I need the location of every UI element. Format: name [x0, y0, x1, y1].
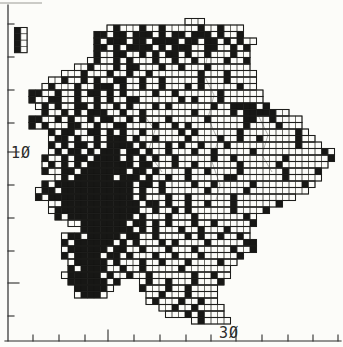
grid-cell [185, 129, 192, 136]
filled-record-cell [127, 64, 134, 71]
grid-cell [205, 285, 212, 292]
grid-cell [263, 188, 270, 195]
filled-record-cell [94, 97, 101, 104]
grid-cell [172, 227, 179, 234]
grid-cell [179, 103, 186, 110]
filled-record-cell [15, 40, 21, 46]
grid-cell [81, 233, 88, 240]
grid-cell [309, 168, 316, 175]
grid-cell [192, 285, 199, 292]
grid-cell [224, 97, 231, 104]
grid-cell [211, 279, 218, 286]
filled-record-cell [107, 142, 114, 149]
grid-cell [88, 77, 95, 84]
grid-cell [146, 51, 153, 58]
filled-record-cell [153, 207, 160, 214]
grid-cell [198, 110, 205, 117]
grid-cell [224, 214, 231, 221]
filled-record-cell [192, 246, 199, 253]
grid-cell [172, 220, 179, 227]
filled-record-cell [88, 129, 95, 136]
grid-cell [224, 45, 231, 52]
grid-cell [140, 233, 147, 240]
grid-cell [302, 129, 309, 136]
grid-cell [153, 259, 160, 266]
grid-cell [205, 194, 212, 201]
filled-record-cell [55, 181, 62, 188]
filled-record-cell [185, 207, 192, 214]
filled-record-cell [218, 97, 225, 104]
grid-cell [289, 162, 296, 169]
grid-cell [179, 162, 186, 169]
grid-cell [179, 149, 186, 156]
filled-record-cell [231, 207, 238, 214]
grid-cell [75, 220, 82, 227]
filled-record-cell [107, 240, 114, 247]
filled-record-cell [107, 149, 114, 156]
grid-cell [250, 194, 257, 201]
filled-record-cell [237, 103, 244, 110]
grid-cell [205, 207, 212, 214]
grid-cell [205, 123, 212, 130]
grid-cell [172, 259, 179, 266]
grid-cell [250, 162, 257, 169]
filled-record-cell [81, 279, 88, 286]
filled-record-cell [120, 207, 127, 214]
grid-cell [244, 64, 251, 71]
filled-record-cell [81, 227, 88, 234]
filled-record-cell [244, 188, 251, 195]
grid-cell [289, 142, 296, 149]
grid-cell [36, 188, 43, 195]
grid-cell [231, 214, 238, 221]
grid-cell [257, 175, 264, 182]
grid-cell [172, 77, 179, 84]
grid-cell [62, 246, 69, 253]
grid-cell [185, 90, 192, 97]
coastline-segment [185, 19, 205, 26]
grid-cell [159, 201, 166, 208]
grid-cell [166, 240, 173, 247]
filled-record-cell [250, 149, 257, 156]
grid-cell [172, 97, 179, 104]
filled-record-cell [153, 253, 160, 260]
filled-record-cell [101, 168, 108, 175]
grid-cell [153, 97, 160, 104]
grid-cell [185, 240, 192, 247]
grid-cell [159, 116, 166, 123]
filled-record-cell [224, 77, 231, 84]
filled-record-cell [29, 123, 36, 130]
grid-cell [185, 19, 192, 26]
filled-record-cell [120, 246, 127, 253]
filled-record-cell [114, 123, 121, 130]
filled-record-cell [120, 175, 127, 182]
grid-cell [127, 90, 134, 97]
grid-cell [237, 207, 244, 214]
filled-record-cell [15, 46, 21, 52]
grid-cell [179, 116, 186, 123]
grid-cell [146, 253, 153, 260]
filled-record-cell [133, 168, 140, 175]
grid-cell [101, 97, 108, 104]
filled-record-cell [192, 129, 199, 136]
filled-record-cell [88, 90, 95, 97]
grid-cell [276, 168, 283, 175]
grid-cell [68, 175, 75, 182]
grid-cell [218, 162, 225, 169]
grid-cell [205, 246, 212, 253]
filled-record-cell [133, 207, 140, 214]
grid-cell [172, 116, 179, 123]
filled-record-cell [120, 194, 127, 201]
grid-cell [257, 194, 264, 201]
grid-cell [257, 142, 264, 149]
grid-cell [166, 207, 173, 214]
filled-record-cell [198, 77, 205, 84]
grid-cell [218, 77, 225, 84]
filled-record-cell [75, 84, 82, 91]
grid-cell [270, 194, 277, 201]
filled-record-cell [140, 38, 147, 45]
filled-record-cell [107, 220, 114, 227]
grid-cell [146, 25, 153, 32]
grid-cell [237, 51, 244, 58]
grid-cell [153, 194, 160, 201]
grid-cell [101, 90, 108, 97]
